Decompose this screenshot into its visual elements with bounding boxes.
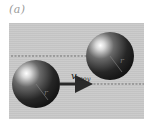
sphere-upper-right [86,32,134,80]
velocity-subscript: moy [77,75,91,83]
diagram-canvas: r r [0,0,154,125]
sphere-lower-left [12,60,60,108]
velocity-label: vmoy [71,71,90,83]
